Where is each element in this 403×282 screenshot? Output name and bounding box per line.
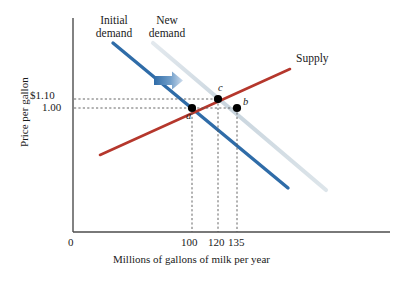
curve-new-demand xyxy=(153,43,326,190)
curve-label-new-demand: New demand xyxy=(141,14,193,40)
curve-label-initial-demand: Initial demand xyxy=(86,14,142,40)
y-tick-label-100: 1.00 xyxy=(42,101,61,113)
point-label-b: b xyxy=(243,96,248,108)
point-c xyxy=(214,95,222,103)
x-axis-title: Millions of gallons of milk per year xyxy=(113,253,270,265)
chart-canvas xyxy=(0,0,403,282)
curve-initial-demand xyxy=(113,43,288,188)
y-axis-title: Price per gallon xyxy=(18,57,30,167)
curve-supply xyxy=(100,69,290,155)
point-label-c: c xyxy=(218,82,223,94)
new-demand-line-2: demand xyxy=(149,27,185,39)
point-label-a: a xyxy=(186,110,191,122)
y-tick-label-110: $1.10 xyxy=(30,89,55,101)
x-tick-label-0: 0 xyxy=(68,236,74,248)
curve-label-supply: Supply xyxy=(296,52,329,65)
initial-demand-line-1: Initial xyxy=(100,14,127,26)
initial-demand-line-2: demand xyxy=(96,27,132,39)
supply-demand-chart: Initial demand New demand Supply Price p… xyxy=(0,0,403,282)
x-tick-label-100: 100 xyxy=(181,236,198,248)
x-tick-label-120: 120 xyxy=(208,236,225,248)
guide-lines xyxy=(74,99,237,232)
new-demand-line-1: New xyxy=(156,14,178,26)
point-b xyxy=(233,104,241,112)
x-tick-label-135: 135 xyxy=(228,236,245,248)
